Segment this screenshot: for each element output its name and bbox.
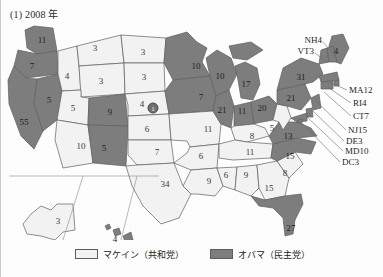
state-IN[interactable] [234, 102, 254, 126]
state-NE[interactable] [125, 91, 169, 116]
state-OK[interactable] [128, 140, 174, 165]
state-MN[interactable] [164, 32, 210, 80]
state-CO[interactable] [88, 94, 128, 126]
map-legend: マケイン（共和党） オバマ（民主党） [1, 244, 383, 264]
us-electoral-map: .st{stroke:#5e5e5e;stroke-width:.7;strok… [1, 18, 383, 240]
callout-label-ri: RI4 [353, 99, 367, 108]
state-NY[interactable] [277, 58, 323, 90]
state-MO[interactable] [169, 111, 221, 147]
legend-label-obama: オバマ（民主党） [238, 248, 310, 261]
callout-label-de: DE3 [346, 137, 363, 146]
state-MT[interactable] [77, 35, 124, 66]
legend-swatch-democrat [210, 249, 233, 259]
state-KY[interactable] [231, 124, 269, 142]
nebraska-split-district-marker[interactable]: 1 [148, 103, 159, 114]
callout-label-nh: NH4 [305, 36, 323, 45]
legend-swatch-republican [75, 249, 98, 259]
state-shapes [8, 26, 349, 240]
figure-page: (1) 2008 年 .st{stroke:#5e5e5e;stroke-wid… [0, 0, 383, 277]
callout-label-ct: CT7 [353, 112, 369, 121]
nebraska-split-district-label: 1 [149, 104, 158, 113]
callout-label-md: MD10 [345, 147, 369, 156]
callout-label-vt: VT3 [298, 47, 315, 56]
state-LA[interactable] [183, 168, 223, 196]
state-AR[interactable] [174, 144, 219, 170]
state-IA[interactable] [165, 76, 216, 114]
state-HI[interactable] [105, 224, 133, 240]
state-KS[interactable] [128, 114, 171, 140]
state-WY[interactable] [79, 63, 125, 97]
legend-item-mccain[interactable]: マケイン（共和党） [75, 248, 184, 261]
state-NJ[interactable] [311, 94, 321, 110]
callout-label-dc: DC3 [342, 158, 359, 167]
state-ND[interactable] [121, 35, 166, 63]
state-CT[interactable] [321, 81, 333, 89]
state-TX[interactable] [126, 163, 191, 224]
legend-item-obama[interactable]: オバマ（民主党） [210, 248, 310, 261]
state-FL[interactable] [251, 194, 303, 236]
state-TN[interactable] [219, 140, 273, 160]
state-AZ[interactable] [55, 120, 93, 168]
state-AL[interactable] [235, 165, 259, 196]
state-SD[interactable] [124, 63, 165, 94]
legend-label-mccain: マケイン（共和党） [103, 248, 184, 261]
callout-label-ma: MA12 [349, 86, 373, 95]
state-NM[interactable] [88, 125, 128, 166]
state-AK[interactable] [23, 204, 75, 240]
state-WA[interactable] [25, 26, 57, 54]
callout-label-nj: NJ15 [348, 126, 367, 135]
map-svg: .st{stroke:#5e5e5e;stroke-width:.7;strok… [1, 18, 383, 240]
